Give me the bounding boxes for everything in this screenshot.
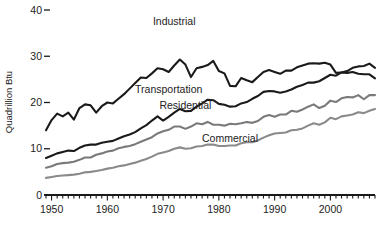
- y-tick-label-20: 20: [30, 96, 42, 108]
- x-tick-label-2000: 2000: [319, 203, 343, 215]
- x-tick-label-1970: 1970: [151, 203, 175, 215]
- y-tick-label-10: 10: [30, 142, 42, 154]
- x-tick-label-1990: 1990: [263, 203, 287, 215]
- y-tick-label-30: 30: [30, 50, 42, 62]
- series-line-industrial: [46, 59, 375, 130]
- x-tick-label-1980: 1980: [207, 203, 231, 215]
- series-lines: [46, 59, 375, 177]
- y-tick-label-40: 40: [30, 4, 42, 16]
- series-label-industrial: Industrial: [153, 15, 196, 27]
- y-axis-title-text: Quadrillion Btu: [3, 71, 14, 133]
- series-label-residential: Residential: [159, 99, 211, 111]
- y-axis-title: Quadrillion Btu: [3, 71, 14, 133]
- series-label-transportation: Transportation: [135, 83, 202, 95]
- y-axis-ticks: 010203040: [30, 4, 50, 201]
- series-label-commercial: Commercial: [202, 132, 258, 144]
- x-tick-label-1960: 1960: [96, 203, 120, 215]
- energy-consumption-chart: 010203040 195019601970198019902000 Indus…: [0, 0, 387, 229]
- x-axis: 195019601970198019902000: [40, 195, 375, 215]
- chart-canvas: 010203040 195019601970198019902000 Indus…: [0, 0, 387, 229]
- y-tick-label-0: 0: [36, 189, 42, 201]
- x-tick-label-1950: 1950: [40, 203, 64, 215]
